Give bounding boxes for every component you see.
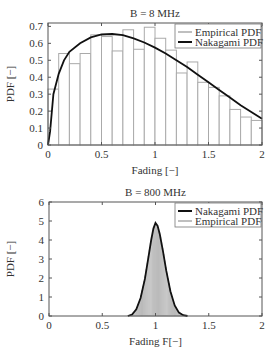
x-tick-label: 1 [153, 319, 159, 331]
histogram-bar [123, 30, 134, 145]
y-tick-label: 0.5 [29, 54, 43, 66]
x-tick-label: 2 [259, 319, 265, 331]
legend: Nakagami PDFEmpirical PDF [175, 203, 263, 227]
y-tick-label: 0.7 [29, 20, 43, 32]
chart-800mhz: B = 800 MHz00.511.520123456Fading F[−]PD… [0, 180, 276, 357]
histogram-bar [59, 54, 70, 146]
y-tick-label: 0.2 [29, 105, 43, 117]
y-tick-label: 5 [39, 215, 45, 227]
y-tick-label: 0.3 [29, 88, 43, 100]
x-tick-label: 1.5 [202, 148, 216, 160]
chart-title: B = 800 MHz [125, 186, 186, 198]
histogram-bar [69, 64, 80, 145]
x-tick-label: 0.5 [95, 319, 109, 331]
y-tick-label: 0.4 [29, 71, 43, 83]
chart-8mhz: B = 8 MHz00.511.5200.10.20.30.40.50.60.7… [0, 0, 276, 180]
y-axis-label: PDF [−] [4, 66, 16, 102]
histogram-bar [219, 96, 230, 145]
x-tick-label: 0 [46, 319, 52, 331]
y-tick-label: 2 [39, 272, 45, 284]
y-tick-label: 0.6 [29, 37, 43, 49]
y-tick-label: 0 [38, 139, 44, 151]
legend: Empirical PDFNakagami PDF [175, 24, 263, 48]
x-tick-label: 0.5 [95, 148, 109, 160]
x-tick-label: 0 [45, 148, 51, 160]
legend-label: Empirical PDF [195, 215, 261, 227]
histogram-bar [230, 109, 241, 145]
histogram-bar [241, 117, 252, 145]
y-tick-label: 4 [39, 234, 45, 246]
y-axis-label: PDF [−] [4, 241, 16, 277]
histogram-bar [176, 73, 187, 145]
histogram-bar [166, 50, 177, 145]
histogram-bar [91, 35, 102, 145]
x-axis-label: Fading F[−] [129, 335, 182, 347]
histogram-bar [134, 49, 145, 145]
histogram-bar [209, 87, 220, 145]
histogram-bars [130, 224, 183, 316]
histogram-bar [251, 120, 262, 145]
histogram-bar [112, 51, 123, 145]
y-tick-label: 1 [39, 291, 45, 303]
y-tick-label: 0.1 [29, 122, 43, 134]
y-tick-label: 6 [39, 196, 45, 208]
x-tick-label: 1.5 [202, 319, 216, 331]
x-tick-label: 1 [152, 148, 158, 160]
y-tick-label: 0 [39, 310, 45, 322]
histogram-bar [102, 37, 113, 145]
legend-label: Nakagami PDF [195, 36, 263, 48]
y-tick-label: 3 [39, 253, 45, 265]
histogram-bar [80, 54, 91, 146]
histogram-bar [198, 82, 209, 145]
x-tick-label: 2 [259, 148, 265, 160]
x-axis-label: Fading [−] [132, 164, 179, 176]
histogram-bar [155, 38, 166, 145]
chart-title: B = 8 MHz [130, 7, 180, 19]
